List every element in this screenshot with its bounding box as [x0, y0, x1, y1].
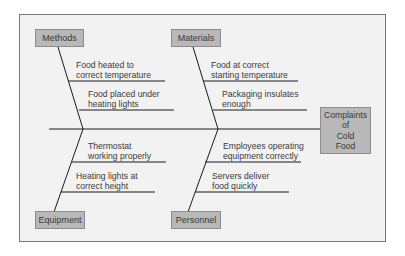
cause-label: Packaging insulates enough [222, 89, 298, 109]
cause-label: Employees operating equipment correctly [223, 141, 304, 161]
cause-label: Heating lights at correct height [76, 171, 138, 191]
effect-box: Complaints of Cold Food [320, 107, 371, 154]
effect-line: Food [336, 141, 356, 152]
cause-label: Food heated to correct temperature [76, 60, 151, 80]
cause-text-line: Food placed under [88, 89, 160, 99]
category-label: Personnel [176, 215, 217, 225]
category-box-methods: Methods [35, 29, 84, 47]
cause-text-line: correct temperature [76, 70, 151, 80]
cause-text-line: Thermostat [88, 141, 151, 151]
cause-text-line: correct height [76, 181, 138, 191]
category-label: Equipment [38, 215, 81, 225]
cause-label: Servers deliver food quickly [212, 171, 269, 191]
effect-line: Cold [337, 131, 355, 142]
cause-text-line: working properly [88, 151, 151, 161]
cause-text-line: heating lights [88, 99, 160, 109]
cause-label: Thermostat working properly [88, 141, 151, 161]
effect-line: Complaints [324, 110, 367, 121]
cause-text-line: enough [222, 99, 298, 109]
cause-label: Food at correct starting temperature [211, 60, 288, 80]
category-label: Materials [178, 33, 215, 43]
cause-text-line: starting temperature [211, 70, 288, 80]
cause-text-line: Packaging insulates [222, 89, 298, 99]
cause-label: Food placed under heating lights [88, 89, 160, 109]
cause-text-line: Food heated to [76, 60, 151, 70]
category-box-equipment: Equipment [35, 211, 85, 229]
effect-line: of [342, 120, 349, 131]
cause-text-line: Employees operating [223, 141, 304, 151]
cause-text-line: equipment correctly [223, 151, 304, 161]
cause-text-line: Food at correct [211, 60, 288, 70]
cause-text-line: Heating lights at [76, 171, 138, 181]
cause-text-line: food quickly [212, 181, 269, 191]
category-label: Methods [42, 33, 77, 43]
category-box-materials: Materials [171, 29, 221, 47]
cause-text-line: Servers deliver [212, 171, 269, 181]
category-box-personnel: Personnel [171, 211, 221, 229]
